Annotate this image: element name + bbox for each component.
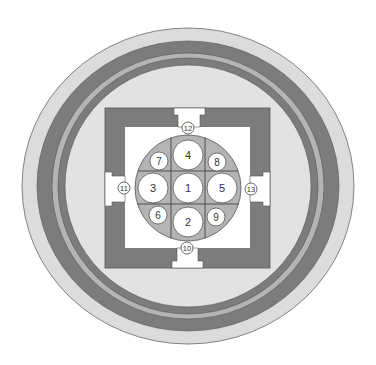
cell-label: 2 [185, 216, 191, 228]
gate-label-text: 10 [183, 244, 191, 253]
gate-label-text: 13 [247, 185, 255, 194]
cell-label: 4 [185, 149, 191, 161]
gate-label-text: 12 [184, 124, 192, 133]
cells: 123456789 [138, 140, 237, 237]
cell-label: 1 [185, 182, 191, 194]
cell-label: 7 [156, 156, 162, 167]
cell-8: 8 [208, 153, 226, 171]
cell-2: 2 [173, 207, 203, 237]
cell-label: 9 [213, 212, 219, 223]
cell-1: 1 [173, 173, 203, 203]
cell-label: 8 [214, 157, 220, 168]
cell-6: 6 [149, 206, 167, 224]
cell-label: 6 [155, 210, 161, 221]
cell-7: 7 [150, 152, 168, 170]
cell-4: 4 [173, 140, 203, 170]
cell-9: 9 [207, 208, 225, 226]
gate-label-text: 11 [120, 184, 128, 193]
mandala-diagram: 123456789 10111213 [0, 0, 376, 365]
gate-label-13: 13 [245, 183, 257, 195]
cell-3: 3 [138, 173, 168, 203]
cell-5: 5 [207, 173, 237, 203]
cell-label: 3 [150, 182, 156, 194]
gate-label-11: 11 [118, 182, 130, 194]
gate-label-12: 12 [182, 122, 194, 134]
cell-label: 5 [219, 182, 225, 194]
gate-label-10: 10 [181, 242, 193, 254]
